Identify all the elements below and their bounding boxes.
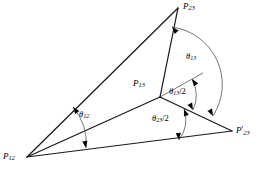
diagram-svg — [0, 0, 260, 180]
angle-theta13-label: θ13 — [186, 52, 196, 61]
angle-theta13-half-arrowhead-end — [188, 103, 193, 110]
angle-theta12-label: θ12 — [79, 110, 89, 119]
angle-theta23-half-label: θ23/2 — [152, 114, 169, 123]
edge-p12-p23 — [27, 8, 178, 157]
edge-p23-p13 — [160, 8, 178, 97]
vertex-p23-top-label: P23 — [183, 2, 195, 12]
vertex-p23-prime-right-label: P'23 — [236, 125, 250, 136]
vertex-p13-center-label: P13 — [133, 79, 145, 89]
edge-p12-p23prime-baseline — [27, 131, 232, 157]
vertex-p12-bottom-left-label: P12 — [3, 152, 15, 162]
angle-theta13-arrowhead-end — [207, 109, 213, 116]
angle-theta13-half-arrowhead-start — [192, 79, 198, 86]
angle-arcs-group — [73, 27, 222, 148]
geometry-diagram-canvas: P23P13P12P'23 θ13θ13/2θ23/2θ12 — [0, 0, 260, 180]
angle-theta12-arrowhead-end — [82, 141, 87, 148]
angle-theta13-half-label: θ13/2 — [169, 87, 186, 96]
edges-group — [27, 8, 232, 157]
angle-theta13-arc — [172, 27, 222, 116]
